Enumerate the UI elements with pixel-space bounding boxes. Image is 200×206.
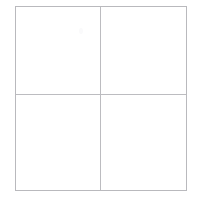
grid-cell-bottom-right[interactable] — [101, 95, 186, 190]
page-root — [0, 0, 200, 206]
grid-cell-top-left-text — [16, 7, 100, 94]
grid-cell-bottom-left[interactable] — [16, 95, 101, 190]
grid-cell-top-left[interactable] — [16, 7, 101, 95]
empty-2x2-grid — [15, 6, 187, 191]
grid-cell-bottom-right-text — [101, 95, 186, 190]
grid-cell-top-right-text — [101, 7, 186, 94]
faint-speck-artifact — [79, 28, 83, 34]
grid-cell-bottom-left-text — [16, 95, 100, 190]
grid-cell-top-right[interactable] — [101, 7, 186, 95]
